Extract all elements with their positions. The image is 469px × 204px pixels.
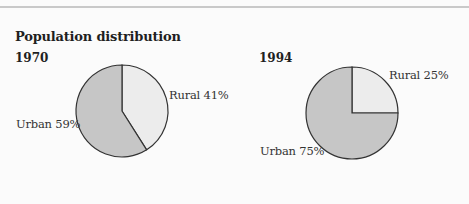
- label-rural-1970: Rural 41%: [169, 88, 229, 102]
- label-urban-1970: Urban 59%: [16, 117, 80, 131]
- pie-chart-1970: [76, 65, 168, 157]
- pie-charts: [0, 0, 469, 204]
- label-rural-1994: Rural 25%: [389, 68, 449, 82]
- label-urban-1994: Urban 75%: [260, 144, 324, 158]
